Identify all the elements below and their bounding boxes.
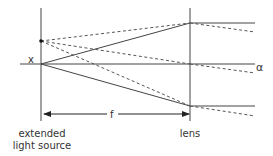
source-point-dot — [39, 39, 43, 43]
source-point-label: x — [28, 54, 34, 65]
source-label-line2: light source — [13, 140, 72, 151]
source-label-line1: extended — [18, 128, 65, 139]
axis-alpha-label: α — [256, 61, 263, 74]
dashed-rays — [41, 23, 255, 116]
optics-diagram: x α f extended light source lens — [0, 0, 273, 156]
focal-length-label: f — [110, 109, 114, 120]
lens-label: lens — [180, 128, 200, 139]
